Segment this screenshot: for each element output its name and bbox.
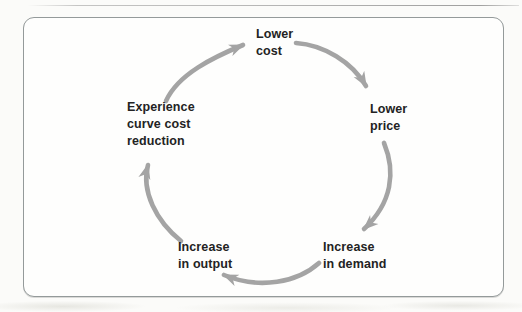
node-increase-output-line1: Increase bbox=[178, 239, 232, 256]
node-increase-output: Increase in output bbox=[178, 239, 232, 273]
arrow-lower-price-to-increase-demand bbox=[364, 143, 390, 229]
node-lower-price: Lower price bbox=[370, 101, 407, 135]
arrow-lower-cost-to-lower-price bbox=[296, 43, 366, 86]
figure-canvas: Lower cost Lower price Increase in deman… bbox=[0, 0, 522, 312]
node-experience-curve-line1: Experience bbox=[127, 99, 195, 116]
node-experience-curve-line2: curve cost bbox=[127, 116, 195, 133]
node-increase-output-line2: in output bbox=[178, 256, 232, 273]
arrow-increase-output-to-experience-curve bbox=[146, 165, 181, 241]
arrow-experience-curve-to-lower-cost bbox=[166, 45, 243, 101]
node-lower-cost: Lower cost bbox=[256, 26, 293, 60]
node-increase-demand-line1: Increase bbox=[323, 239, 386, 256]
node-experience-curve-cost-reduction: Experience curve cost reduction bbox=[127, 99, 195, 150]
node-experience-curve-line3: reduction bbox=[127, 133, 195, 150]
node-lower-cost-line2: cost bbox=[256, 43, 293, 60]
node-increase-demand-line2: in demand bbox=[323, 256, 386, 273]
node-increase-demand: Increase in demand bbox=[323, 239, 386, 273]
arrow-increase-demand-to-increase-output bbox=[224, 263, 319, 283]
node-lower-price-line2: price bbox=[370, 118, 407, 135]
node-lower-cost-line1: Lower bbox=[256, 26, 293, 43]
node-lower-price-line1: Lower bbox=[370, 101, 407, 118]
